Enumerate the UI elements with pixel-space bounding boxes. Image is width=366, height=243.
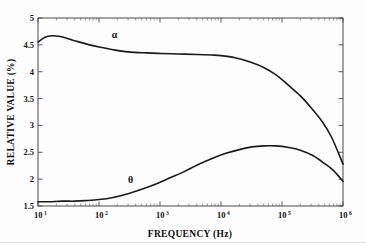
chart-figure: 101102103104105106 1.522.533.544.55 αθ F… xyxy=(0,0,366,243)
x-tick-label: 101 xyxy=(34,210,47,221)
y-tick-label: 3.5 xyxy=(23,94,34,104)
x-tick-label-base: 10 xyxy=(278,210,287,220)
y-tick-label: 1.5 xyxy=(23,201,34,211)
curve-label-theta: θ xyxy=(128,174,133,185)
x-tick-label: 104 xyxy=(217,210,230,221)
x-tick-label-base: 10 xyxy=(95,210,104,220)
x-axis-tick-labels: 101102103104105106 xyxy=(34,210,352,221)
x-tick-label-exponent: 4 xyxy=(227,210,230,216)
x-tick-label: 105 xyxy=(278,210,291,221)
x-tick-label-exponent: 5 xyxy=(288,210,291,216)
x-tick-label: 106 xyxy=(339,210,352,221)
x-tick-label-exponent: 1 xyxy=(44,210,47,216)
x-axis-title: FREQUENCY (Hz) xyxy=(148,229,232,240)
x-tick-label: 102 xyxy=(95,210,108,221)
x-axis-ticks xyxy=(38,18,343,206)
y-tick-label: 4 xyxy=(30,67,35,77)
y-axis-title: RELATIVE VALUE (%) xyxy=(6,59,17,166)
x-tick-label-base: 10 xyxy=(34,210,43,220)
chart-canvas: 101102103104105106 1.522.533.544.55 αθ F… xyxy=(0,0,366,243)
x-tick-label-base: 10 xyxy=(156,210,165,220)
curve-alpha xyxy=(38,36,343,164)
plot-frame xyxy=(38,18,343,206)
x-tick-label-exponent: 2 xyxy=(105,210,108,216)
plot-area-border xyxy=(38,18,343,206)
x-tick-label-exponent: 6 xyxy=(349,210,352,216)
x-tick-label-base: 10 xyxy=(339,210,348,220)
x-tick-label: 103 xyxy=(156,210,169,221)
y-axis-tick-labels: 1.522.533.544.55 xyxy=(23,13,34,211)
y-tick-label: 3 xyxy=(30,120,34,130)
curve-annotations: αθ xyxy=(112,29,133,185)
y-axis-ticks xyxy=(38,18,343,206)
data-curves xyxy=(38,36,343,202)
curve-label-alpha: α xyxy=(112,29,118,40)
x-tick-label-base: 10 xyxy=(217,210,226,220)
y-tick-label: 5 xyxy=(30,13,34,23)
y-tick-label: 2 xyxy=(30,174,34,184)
x-tick-label-exponent: 3 xyxy=(166,210,169,216)
curve-theta xyxy=(38,146,343,202)
y-tick-label: 2.5 xyxy=(23,147,34,157)
y-tick-label: 4.5 xyxy=(23,40,34,50)
